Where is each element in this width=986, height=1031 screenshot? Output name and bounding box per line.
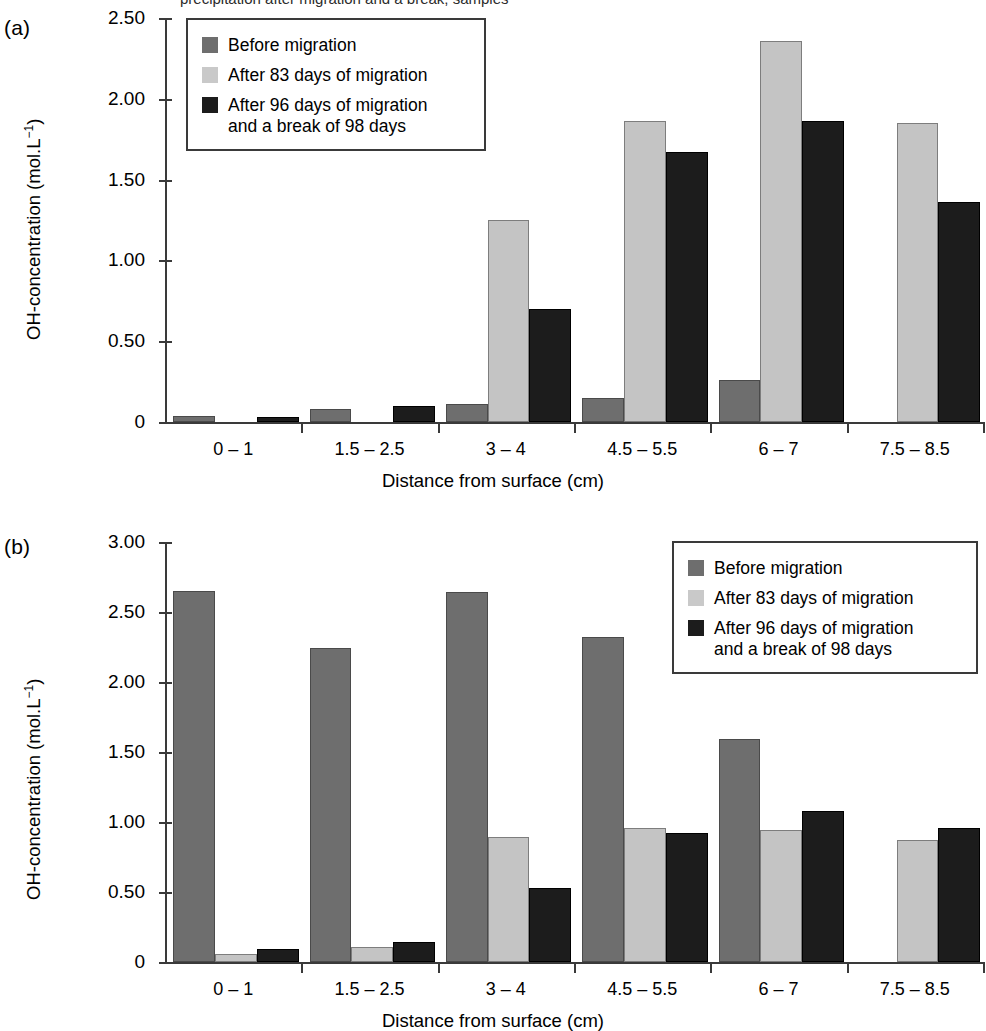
bar: [529, 309, 571, 422]
bar: [719, 739, 761, 962]
bar: [624, 828, 666, 962]
bar: [802, 121, 844, 422]
legend-swatch-icon: [202, 37, 218, 53]
y-axis-tick: [159, 341, 172, 343]
x-axis-tick: [710, 422, 712, 433]
y-axis-tick: [159, 422, 172, 424]
x-axis-tick: [574, 962, 576, 973]
y-axis-tick-label: 2.50: [73, 7, 145, 29]
x-axis-category-label: 4.5 – 5.5: [607, 979, 677, 1000]
bar: [624, 121, 666, 422]
bar: [666, 152, 708, 422]
y-axis-tick: [159, 180, 172, 182]
legend-item: After 96 days of migration and a break o…: [686, 618, 962, 660]
panel-b-letter: (b): [4, 535, 30, 559]
y-axis-tick-label: 1.00: [73, 811, 145, 833]
figure-root: precipitation after migration and a brea…: [0, 0, 986, 1031]
y-axis-tick-label: 0.50: [73, 330, 145, 352]
x-axis-tick: [301, 962, 303, 973]
x-axis-category-label: 1.5 – 2.5: [334, 439, 404, 460]
y-axis-tick-label: 2.00: [73, 671, 145, 693]
y-axis-tick-label: 0: [73, 411, 145, 433]
y-axis-tick: [159, 962, 172, 964]
bar: [488, 837, 530, 962]
panel-b-y-axis-label: OH-concentration (mol.L−1): [22, 679, 45, 900]
x-axis-tick: [710, 962, 712, 973]
legend-swatch-icon: [688, 560, 704, 576]
x-axis-tick: [983, 422, 985, 433]
bar: [215, 954, 257, 962]
bar: [310, 409, 352, 422]
chart-panel-a: (a) OH-concentration (mol.L−1) 00.501.00…: [0, 0, 986, 500]
bar: [488, 220, 530, 422]
x-axis-category-label: 1.5 – 2.5: [334, 979, 404, 1000]
y-axis-tick-label: 0: [73, 951, 145, 973]
legend-item-label: After 83 days of migration: [228, 65, 427, 86]
bar: [802, 811, 844, 962]
x-axis-category-label: 6 – 7: [758, 439, 798, 460]
y-axis-tick: [159, 892, 172, 894]
y-axis-tick: [159, 752, 172, 754]
bar: [666, 833, 708, 962]
x-axis-tick: [301, 422, 303, 433]
y-axis-tick-label: 3.00: [73, 531, 145, 553]
x-axis-tick: [847, 422, 849, 433]
y-axis-tick: [159, 682, 172, 684]
bar: [173, 416, 215, 422]
x-axis-title: Distance from surface (cm): [0, 1010, 986, 1031]
x-axis-category-label: 7.5 – 8.5: [880, 439, 950, 460]
panel-a-letter: (a): [4, 16, 30, 40]
y-axis-tick-label: 0.50: [73, 881, 145, 903]
legend-swatch-icon: [688, 590, 704, 606]
bar: [938, 202, 980, 422]
x-axis-title: Distance from surface (cm): [0, 470, 986, 492]
bar: [393, 942, 435, 962]
x-axis-category-label: 4.5 – 5.5: [607, 439, 677, 460]
y-axis-top-cap: [159, 18, 172, 20]
x-axis-tick: [438, 962, 440, 973]
bar: [173, 591, 215, 962]
y-axis-tick: [159, 260, 172, 262]
legend-item: After 83 days of migration: [686, 588, 962, 609]
x-axis-category-label: 3 – 4: [486, 439, 526, 460]
bar: [897, 123, 939, 422]
bar: [446, 404, 488, 422]
y-axis-tick: [159, 99, 172, 101]
legend-item-label: After 83 days of migration: [714, 588, 913, 609]
x-axis-category-label: 6 – 7: [758, 979, 798, 1000]
y-axis-tick-label: 2.50: [73, 601, 145, 623]
y-axis-tick-label: 1.50: [73, 741, 145, 763]
x-axis-tick: [983, 962, 985, 973]
y-axis-top-cap: [159, 542, 172, 544]
x-axis-category-label: 0 – 1: [213, 439, 253, 460]
legend-item-label: After 96 days of migration and a break o…: [228, 95, 427, 137]
bar: [257, 949, 299, 962]
legend-item: Before migration: [686, 558, 962, 579]
bar: [393, 406, 435, 422]
y-axis-tick: [159, 612, 172, 614]
bar: [897, 840, 939, 962]
y-axis-tick-label: 1.50: [73, 169, 145, 191]
legend-item-label: Before migration: [714, 558, 842, 579]
bar: [351, 947, 393, 962]
bar: [529, 888, 571, 962]
bar: [582, 398, 624, 422]
x-axis-tick: [847, 962, 849, 973]
legend-swatch-icon: [688, 620, 704, 636]
legend-item: Before migration: [200, 35, 470, 56]
y-axis-tick-label: 2.00: [73, 88, 145, 110]
bar: [582, 637, 624, 962]
y-axis-tick: [159, 822, 172, 824]
bar: [760, 830, 802, 962]
y-axis-tick-label: 1.00: [73, 249, 145, 271]
x-axis-category-label: 7.5 – 8.5: [880, 979, 950, 1000]
x-axis-tick: [438, 422, 440, 433]
x-axis-tick: [574, 422, 576, 433]
y-axis-line: [165, 18, 167, 422]
bar: [719, 380, 761, 422]
bar: [938, 828, 980, 962]
panel-a-y-axis-label: OH-concentration (mol.L−1): [22, 119, 45, 340]
bar: [310, 648, 352, 962]
legend-panel-a: Before migrationAfter 83 days of migrati…: [186, 18, 486, 151]
bar: [257, 417, 299, 422]
